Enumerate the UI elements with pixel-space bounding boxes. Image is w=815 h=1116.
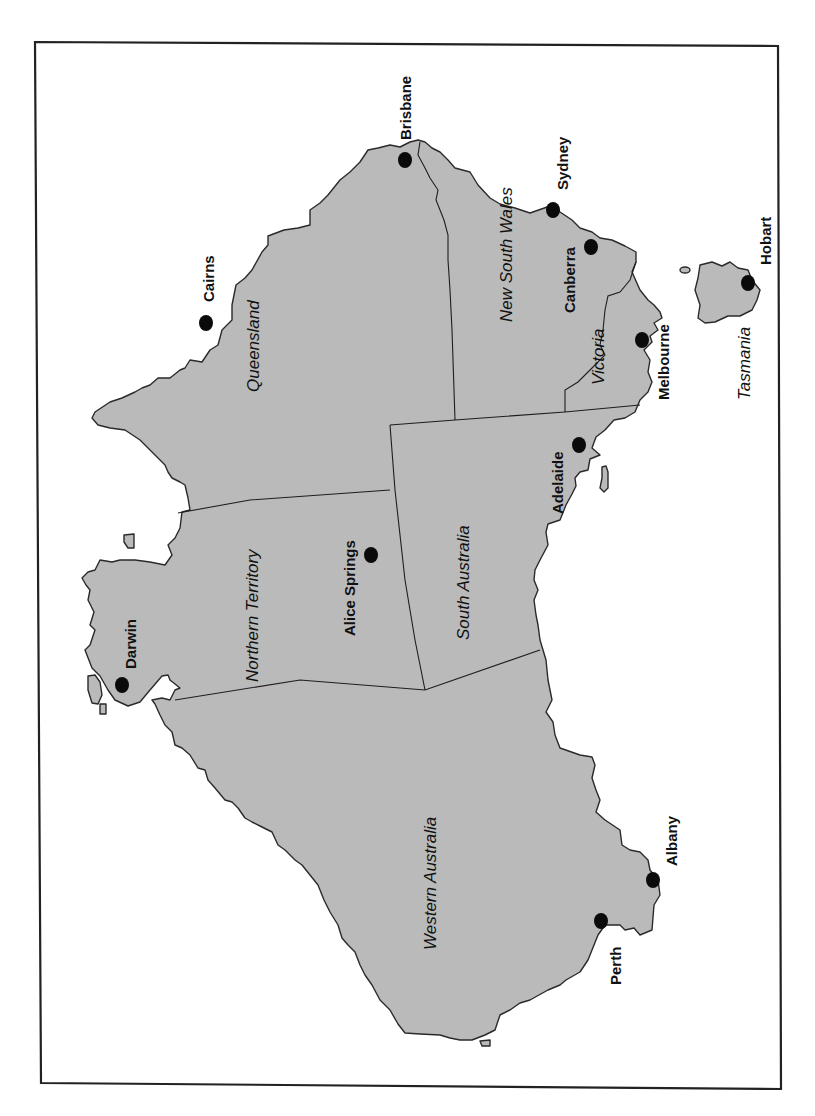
map-canvas: Queensland New South Wales Victoria Tasm… [0,0,815,1116]
city-label-canberra: Canberra [561,246,578,313]
northern-island [124,534,134,548]
darwin-island-small [100,704,106,714]
city-hobart[interactable]: Hobart [741,217,774,291]
city-marker-icon[interactable] [594,913,608,929]
small-island [680,267,690,273]
city-label-alice-springs: Alice Springs [341,540,358,636]
city-label-darwin: Darwin [122,619,139,669]
tasmania-island [695,262,760,323]
city-marker-icon[interactable] [364,547,378,563]
city-label-brisbane: Brisbane [397,76,414,140]
region-label-queensland: Queensland [244,300,263,392]
city-label-adelaide: Adelaide [549,451,566,514]
city-marker-icon[interactable] [398,152,412,168]
city-marker-icon[interactable] [646,872,660,888]
darwin-island [88,675,102,704]
city-marker-icon[interactable] [572,437,586,453]
city-sydney[interactable]: Sydney [546,136,571,218]
city-marker-icon[interactable] [546,202,560,218]
city-marker-icon[interactable] [199,315,213,331]
city-albany[interactable]: Albany [646,815,680,888]
kangaroo-island [600,466,608,492]
city-label-melbourne: Melbourne [655,324,672,400]
region-label-tasmania: Tasmania [735,327,754,400]
region-label-northern-territory: Northern Territory [243,548,262,682]
city-label-perth: Perth [607,947,624,985]
city-marker-icon[interactable] [115,677,129,693]
city-label-sydney: Sydney [554,136,571,190]
city-marker-icon[interactable] [741,275,755,291]
perth-island [480,1040,490,1046]
city-label-hobart: Hobart [757,217,774,265]
city-cairns[interactable]: Cairns [199,255,217,331]
region-label-victoria: Victoria [589,329,608,385]
city-marker-icon[interactable] [635,332,649,348]
region-label-new-south-wales: New South Wales [497,187,516,322]
city-marker-icon[interactable] [584,239,598,255]
city-label-albany: Albany [663,815,680,866]
region-label-south-australia: South Australia [454,525,473,640]
australia-map: Queensland New South Wales Victoria Tasm… [0,0,815,1116]
region-label-western-australia: Western Australia [421,817,440,950]
city-label-cairns: Cairns [200,255,217,302]
